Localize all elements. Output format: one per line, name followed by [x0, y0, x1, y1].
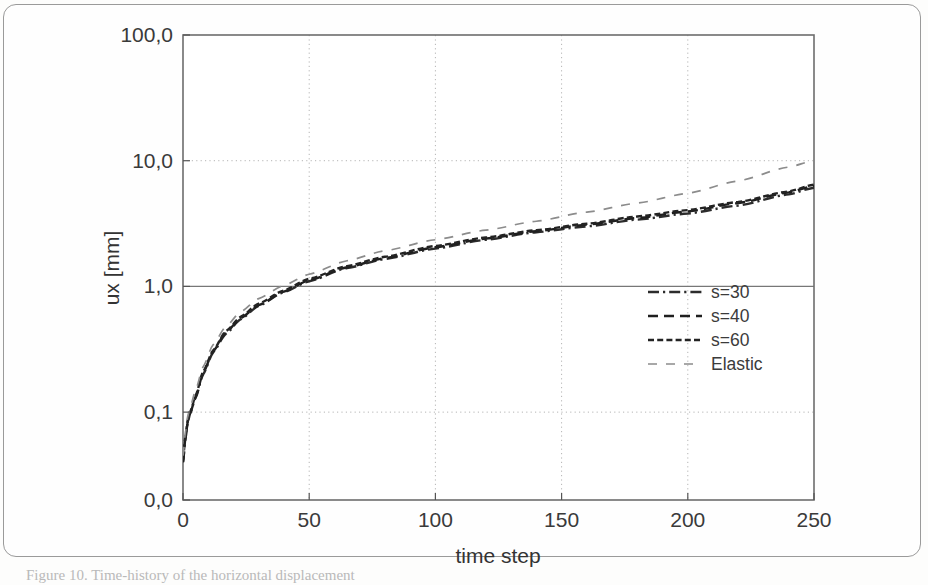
legend-label: s=40	[711, 306, 750, 326]
x-axis-title: time step	[455, 544, 540, 567]
y-tick-label: 0,0	[144, 488, 173, 511]
legend-label: Elastic	[711, 354, 763, 374]
x-tick-label: 50	[298, 508, 321, 531]
y-axis-tick-labels: 0,00,11,010,0100,0	[120, 23, 190, 511]
y-tick-label: 0,1	[144, 400, 173, 423]
chart-figure: 0,00,11,010,0100,0 050100150200250 time …	[0, 0, 928, 585]
legend-label: s=30	[711, 282, 750, 302]
y-tick-label: 100,0	[120, 23, 173, 46]
y-tick-label: 1,0	[144, 274, 173, 297]
x-tick-label: 150	[544, 508, 579, 531]
figure-caption: Figure 10. Time-history of the horizonta…	[26, 567, 356, 583]
y-axis-title: ux [mm]	[100, 231, 123, 306]
y-tick-label: 10,0	[132, 149, 173, 172]
legend-label: s=60	[711, 330, 750, 350]
x-tick-label: 200	[670, 508, 705, 531]
x-tick-label: 100	[418, 508, 453, 531]
plot-background	[183, 35, 814, 500]
chart-svg: 0,00,11,010,0100,0 050100150200250 time …	[0, 0, 928, 585]
x-tick-label: 0	[177, 508, 189, 531]
figure-page: 0,00,11,010,0100,0 050100150200250 time …	[0, 0, 928, 585]
x-tick-label: 250	[796, 508, 831, 531]
